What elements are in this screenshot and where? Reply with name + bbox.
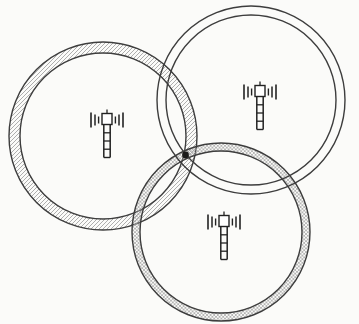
antenna-box xyxy=(255,86,265,97)
coverage-diagram xyxy=(0,0,359,324)
antenna-box xyxy=(102,114,112,125)
coverage-diagram-svg xyxy=(0,0,359,324)
antenna-box xyxy=(219,216,229,227)
intersection-point-dot xyxy=(182,152,189,159)
